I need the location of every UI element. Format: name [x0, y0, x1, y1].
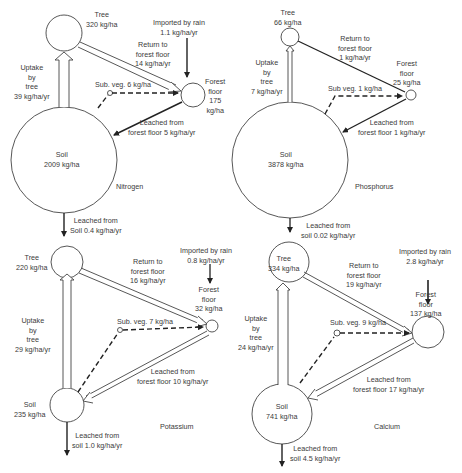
calcium-subveg-node: [334, 330, 340, 336]
nitrogen-leach-floor-label: Leached fromforest floor 5 kg/ha/yr: [128, 118, 196, 137]
potassium-leach-floor-band: [86, 331, 209, 400]
potassium-uptake-arrow: [60, 274, 74, 388]
nitrogen-subveg-node: [108, 91, 113, 96]
nitrogen-subveg-label: Sub. veg. 6 kg/ha: [95, 80, 151, 90]
calcium-return-label: Return toforest floor19 kg/ha/yr: [346, 261, 382, 290]
potassium-soil-pool: [50, 388, 84, 422]
calcium-forest-floor-label: Forestfloor137 kg/ha: [410, 290, 442, 319]
phosphorus-uptake-arrow: [286, 46, 294, 102]
nitrogen-return-label: Return toforest floor14 kg/ha/yr: [135, 40, 171, 69]
phosphorus-return-label: Return toforest floor1 kg/ha/yr: [338, 34, 372, 63]
phosphorus-leach-soil-label: Leached fromsoil 0.02 kg/ha/yr: [301, 221, 355, 240]
phosphorus-uptake-label: Uptakebytree7 kg/ha/yr: [251, 58, 283, 96]
calcium-uptake-arrow: [276, 283, 290, 385]
nitrogen-tree-pool: [46, 15, 82, 51]
calcium-forest-floor-pool: [412, 316, 444, 348]
potassium-subveg-label: Sub. veg. 7 kg/ha: [117, 317, 173, 327]
calcium-uptake-label: Uptakebytree24 kg/ha/yr: [238, 314, 274, 352]
potassium-uptake-label: Uptakebytree29 kg/ha/yr: [15, 316, 51, 354]
phosphorus-leach-floor-label: Leached fromforest floor 1 kg/ha/yr: [358, 118, 426, 137]
nitrogen-tree-label: Tree320 kg/ha: [86, 10, 118, 29]
potassium-tree-label: Tree220 kg/ha: [16, 253, 48, 272]
nitrogen-forest-floor-pool: [181, 83, 205, 107]
nitrogen-soil-label: Soil2009 kg/ha: [44, 150, 80, 169]
potassium-return-label: Return toforest floor16 kg/ha/yr: [130, 257, 166, 286]
nitrogen-uptake-label: Uptakebytree39 kg/ha/yr: [14, 63, 50, 101]
calcium-rain-label: Imported by rain2.8 kg/ha/yr: [399, 247, 451, 266]
calcium-leach-floor-label: Leached fromforest floor 17 kg/ha/yr: [353, 375, 425, 394]
calcium-tree-label: Tree334 kg/ha: [268, 254, 300, 273]
calcium-soil-label: Soil741 kg/ha: [266, 402, 298, 421]
potassium-leach-floor-label: Leached fromforest floor 10 kg/ha/yr: [137, 367, 209, 386]
nitrogen-rain-label: Imported by rain1.1 kg/ha/yr: [153, 18, 205, 37]
nitrogen-forest-floor-label: Forestfloor175kg/ha: [205, 77, 225, 115]
calcium-leach-soil-label: Leached fromsoil 4.5 kg/ha/yr: [290, 444, 340, 463]
calcium-subveg-label: Sub. veg. 9 kg/ha: [330, 318, 386, 328]
phosphorus-tree-pool: [281, 28, 299, 46]
potassium-leach-soil-label: Leached fromsoil 1.0 kg/ha/yr: [72, 431, 122, 450]
nitrogen-uptake-arrow: [55, 52, 73, 107]
phosphorus-soil-label: Soil3878 kg/ha: [268, 150, 304, 169]
phosphorus-tree-label: Tree66 kg/ha: [274, 8, 302, 27]
phosphorus-subveg-label: Sub veg. 1 kg/ha: [328, 84, 382, 94]
potassium-subveg-node: [118, 328, 123, 333]
phosphorus-forest-floor-pool: [406, 90, 416, 100]
calcium-title: Calcium: [374, 422, 400, 432]
potassium-title: Potassium: [160, 422, 194, 432]
nitrogen-title: Nitrogen: [116, 182, 143, 192]
potassium-forest-floor-label: Forestfloor32 kg/ha: [195, 285, 223, 314]
phosphorus-subveg-path: [325, 96, 402, 114]
phosphorus-forest-floor-label: Forestfloor25 kg/ha: [393, 59, 421, 88]
potassium-tree-pool: [51, 246, 83, 278]
potassium-soil-label: Soil235 kg/ha: [14, 400, 46, 419]
nitrogen-leach-soil-label: Leached fromSoil 0.4 kg/ha/yr: [70, 216, 122, 235]
potassium-rain-label: Imported by rain0.8 kg/ha/yr: [180, 246, 232, 265]
potassium-forest-floor-pool: [206, 320, 218, 332]
phosphorus-title: Phosphorus: [355, 182, 393, 192]
